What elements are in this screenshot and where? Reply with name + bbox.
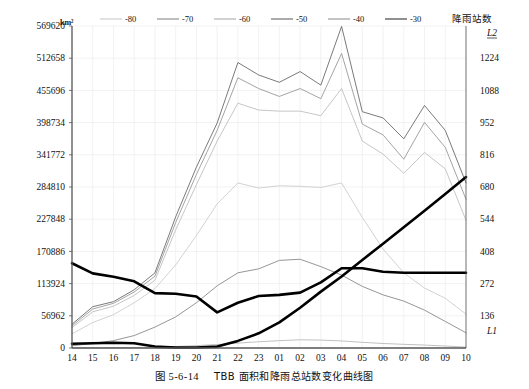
series-label-l1: L1	[486, 326, 497, 336]
x-tick-label: 20	[192, 353, 202, 363]
y-tick-label: 512658	[37, 53, 66, 63]
figure-container: 0569621139241708862278482848103417723987…	[0, 0, 529, 389]
y2-axis-tick-labels: 13627240854468081695210881224	[480, 53, 499, 321]
y2-tick-label: 1224	[480, 53, 499, 63]
y-tick-label: 398734	[37, 118, 66, 128]
y-tick-label: 455696	[37, 86, 66, 96]
y2-tick-label: 544	[480, 214, 495, 224]
y-tick-label: 113924	[37, 279, 65, 289]
x-tick-label: 23	[254, 353, 264, 363]
y2-tick-label: 272	[480, 279, 495, 289]
x-tick-label: 01	[275, 353, 285, 363]
x-tick-label: 08	[420, 353, 430, 363]
legend-label-neg40[interactable]: -40	[353, 14, 364, 24]
y-tick-label: 170886	[37, 247, 66, 257]
series-line-neg40	[72, 53, 466, 325]
legend-label-neg60[interactable]: -60	[239, 14, 250, 24]
right-axis-title: 降雨站数	[452, 13, 492, 24]
series-line-L2	[72, 177, 466, 347]
legend-label-neg80[interactable]: -80	[125, 14, 136, 24]
x-tick-label: 04	[337, 353, 347, 363]
x-tick-label: 18	[150, 353, 160, 363]
x-tick-label: 16	[109, 353, 119, 363]
x-tick-label: 09	[441, 353, 451, 363]
y-axis-tick-labels: 0569621139241708862278482848103417723987…	[37, 21, 73, 353]
y-tick-label: 341772	[37, 150, 66, 160]
y2-tick-label: 136	[480, 311, 495, 321]
y-tick-label: 227848	[37, 214, 66, 224]
series-label-l2: L2	[486, 28, 497, 38]
y-tick-label: 0	[60, 343, 65, 353]
legend-label-neg70[interactable]: -70	[182, 14, 193, 24]
x-tick-label: 03	[316, 353, 326, 363]
x-tick-label: 17	[129, 353, 139, 363]
x-tick-label: 14	[67, 353, 77, 363]
x-tick-label: 10	[461, 353, 471, 363]
caption-number: 图 5-6-14	[155, 371, 199, 382]
x-tick-label: 02	[295, 353, 305, 363]
figure-caption: 图 5-6-14 TBB 面积和降雨总站数变化曲线图	[0, 368, 529, 383]
x-tick-label: 22	[233, 353, 243, 363]
y2-tick-label: 816	[480, 150, 495, 160]
x-tick-label: 07	[399, 353, 409, 363]
y2-tick-label: 680	[480, 182, 495, 192]
y2-tick-label: 408	[480, 247, 495, 257]
series-line-neg60	[72, 183, 466, 334]
legend: -80-70-60-50-40-30	[100, 14, 421, 24]
tbb-area-rainfall-line-chart: 0569621139241708862278482848103417723987…	[0, 0, 529, 389]
y2-tick-label: 952	[480, 118, 495, 128]
y-tick-label: 284810	[37, 182, 66, 192]
x-tick-label: 21	[212, 353, 222, 363]
caption-text: TBB 面积和降雨总站数变化曲线图	[214, 371, 374, 382]
legend-label-neg50[interactable]: -50	[296, 14, 307, 24]
y-tick-label: 56962	[41, 311, 65, 321]
x-tick-label: 15	[88, 353, 98, 363]
y2-tick-label: 1088	[480, 86, 499, 96]
x-axis-tick-labels: 1415161718192021222301020304050607080910	[67, 353, 471, 363]
x-tick-label: 19	[171, 353, 181, 363]
left-axis-unit-label: km²	[60, 18, 74, 27]
x-tick-label: 06	[378, 353, 388, 363]
legend-label-neg30[interactable]: -30	[410, 14, 421, 24]
x-tick-label: 05	[358, 353, 368, 363]
